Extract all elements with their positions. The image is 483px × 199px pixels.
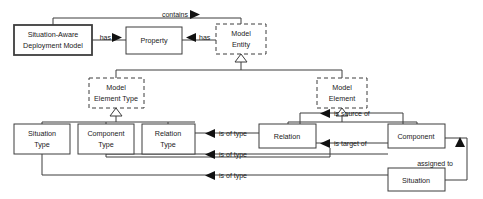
- node-label-line-1: Situation: [402, 176, 430, 185]
- edge-is-of-type-component-seg: [106, 148, 330, 157]
- node-label-line-2: Type: [98, 140, 114, 149]
- node-model-element[interactable]: Model Element: [317, 78, 367, 108]
- edge-label-has-right: has: [199, 34, 211, 41]
- node-component-type[interactable]: Component Type: [78, 124, 134, 154]
- node-relation[interactable]: Relation: [259, 124, 316, 148]
- uml-diagram-canvas: Situation-Aware Deployment Model Propert…: [0, 0, 483, 199]
- edge-label-has-left: has: [100, 34, 112, 41]
- arrow-is-of-type-3-left-icon: [205, 171, 215, 180]
- node-situation[interactable]: Situation: [388, 168, 445, 191]
- edge-label-is-of-type-2: is of type: [219, 151, 247, 159]
- edge-label-is-of-type-3: is of type: [219, 172, 247, 180]
- edge-label-assigned-to: assigned to: [417, 160, 453, 168]
- node-label-line-2: Type: [34, 140, 50, 149]
- arrow-has-right-left-icon: [186, 33, 196, 42]
- node-label-line-2: Element Type: [94, 94, 138, 103]
- node-situation-aware-deployment-model[interactable]: Situation-Aware Deployment Model: [14, 25, 92, 55]
- node-label-line-1: Relation: [155, 129, 181, 138]
- node-situation-type[interactable]: Situation Type: [14, 124, 70, 154]
- node-label-line-1: Situation-Aware: [28, 30, 79, 39]
- node-property[interactable]: Property: [126, 27, 182, 54]
- node-label-line-2: Entity: [232, 40, 250, 49]
- node-label-line-1: Situation: [28, 129, 56, 138]
- edge-label-is-source-of: is source of: [334, 110, 370, 117]
- edge-assigned-to: [445, 138, 467, 180]
- arrow-is-source-of-left-icon: [320, 109, 330, 118]
- arrow-is-of-type-2-left-icon: [205, 150, 215, 159]
- arrow-is-target-of-left-icon: [320, 139, 330, 148]
- edge-generalize-me-to-entity: [241, 70, 342, 78]
- arrow-has-left-right-icon: [112, 33, 122, 42]
- edge-label-contains: contains: [162, 11, 189, 18]
- node-label-line-1: Component: [397, 132, 434, 141]
- node-label-line-1: Property: [140, 36, 168, 45]
- node-label-line-1: Model: [332, 83, 352, 92]
- node-label-line-2: Type: [160, 140, 176, 149]
- edge-generalize-met-to-entity: [116, 62, 241, 78]
- arrow-is-of-type-1-left-icon: [205, 129, 215, 138]
- node-layer: Situation-Aware Deployment Model Propert…: [14, 24, 445, 191]
- node-model-element-type[interactable]: Model Element Type: [89, 78, 144, 108]
- generalization-triangle-model-entity: [235, 54, 247, 62]
- diagram-svg: Situation-Aware Deployment Model Propert…: [0, 0, 483, 199]
- node-model-entity[interactable]: Model Entity: [216, 24, 266, 54]
- node-label-line-1: Model: [231, 29, 251, 38]
- node-component[interactable]: Component: [388, 124, 445, 148]
- edge-label-is-target-of: is target of: [334, 140, 367, 148]
- node-label-line-2: Element: [329, 94, 355, 103]
- generalization-triangle-model-element-type: [110, 108, 122, 116]
- edge-label-is-of-type-1: is of type: [219, 130, 247, 138]
- node-label-line-1: Relation: [274, 132, 300, 141]
- node-label-line-1: Component: [87, 129, 124, 138]
- edge-contains: [53, 18, 241, 25]
- node-relation-type[interactable]: Relation Type: [142, 124, 195, 154]
- generalization-markers: [110, 54, 348, 116]
- node-label-line-1: Model: [106, 83, 126, 92]
- node-label-line-2: Deployment Model: [23, 41, 83, 50]
